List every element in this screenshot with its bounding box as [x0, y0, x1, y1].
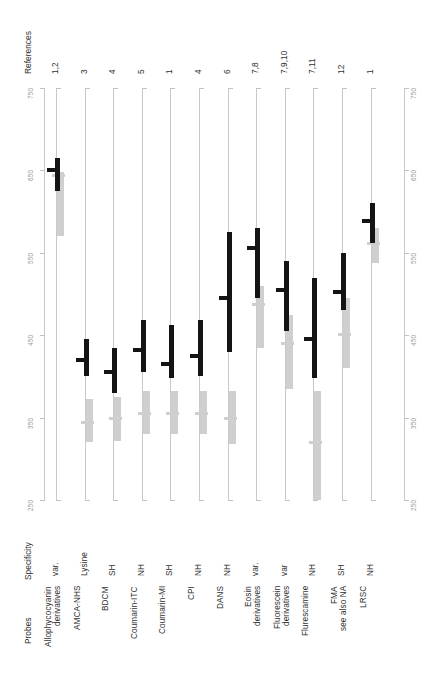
- axis-cap-top: [113, 88, 118, 89]
- category-axis-line: [170, 88, 171, 500]
- axis-cap-top: [199, 88, 204, 89]
- axis-tick: [40, 253, 45, 254]
- reference-label: 7,11: [309, 22, 318, 74]
- axis-tick-label: 550: [411, 242, 418, 264]
- axis-cap-top: [342, 88, 347, 89]
- excitation-range-bar: [255, 228, 260, 298]
- reference-label: 4: [195, 22, 204, 74]
- probe-label: LRSC: [360, 586, 369, 686]
- axis-cap-bottom: [228, 500, 233, 501]
- specificity-label: Lysine: [81, 520, 90, 576]
- excitation-marker: [276, 288, 289, 292]
- reference-label: 7,9,10: [281, 22, 290, 74]
- excitation-marker: [333, 290, 346, 294]
- category-axis-line: [199, 88, 200, 500]
- emission-marker: [338, 333, 351, 336]
- axis-cap-top: [313, 88, 318, 89]
- reference-label: 12: [338, 22, 347, 74]
- category-axis-line: [371, 88, 372, 500]
- axis-tick: [404, 335, 409, 336]
- reference-label: 3: [81, 22, 90, 74]
- excitation-range-bar: [141, 320, 146, 372]
- category-axis-line: [142, 88, 143, 500]
- specificity-label: NH: [309, 520, 318, 576]
- probe-label: Fluorescein derivatives: [274, 586, 291, 686]
- specificity-label: var.: [252, 520, 261, 576]
- axis-cap-bottom: [170, 500, 175, 501]
- excitation-range-bar: [341, 253, 346, 311]
- axis-cap-bottom: [256, 500, 261, 501]
- axis-tick-label: 650: [28, 159, 35, 181]
- emission-marker: [309, 441, 322, 444]
- excitation-range-bar: [312, 278, 317, 379]
- axis-tick-label: 350: [411, 407, 418, 429]
- emission-marker: [195, 412, 208, 415]
- axis-tick: [404, 253, 409, 254]
- excitation-marker: [161, 362, 174, 366]
- axis-tick-label: 350: [28, 407, 35, 429]
- axis-cap-bottom: [371, 500, 376, 501]
- probe-spectra-figure: References Specificity Probes 7506505504…: [0, 0, 432, 695]
- excitation-marker: [219, 296, 232, 300]
- axis-tick: [404, 88, 409, 89]
- axis-cap-bottom: [342, 500, 347, 501]
- specificity-label: var.: [52, 520, 61, 576]
- excitation-marker: [247, 246, 260, 250]
- axis-tick: [40, 500, 45, 501]
- axis-tick-label: 250: [411, 489, 418, 511]
- axis-cap-top: [142, 88, 147, 89]
- reference-label: 1: [166, 22, 175, 74]
- excitation-range-bar: [198, 320, 203, 376]
- axis-tick-label: 750: [411, 77, 418, 99]
- axis-tick-label: 550: [28, 242, 35, 264]
- axis-tick-label: 450: [411, 324, 418, 346]
- reference-label: 5: [138, 22, 147, 74]
- excitation-range-bar: [227, 232, 232, 351]
- specificity-label: NH: [367, 520, 376, 576]
- axis-cap-top: [56, 88, 61, 89]
- probe-label: BDCM: [102, 586, 111, 686]
- probe-label: DANS: [217, 586, 226, 686]
- axis-cap-bottom: [313, 500, 318, 501]
- excitation-marker: [76, 358, 89, 362]
- emission-marker: [138, 412, 151, 415]
- emission-marker: [224, 417, 237, 420]
- excitation-marker: [104, 370, 117, 374]
- axis-cap-top: [285, 88, 290, 89]
- axis-cap-bottom: [142, 500, 147, 501]
- specificity-label: SH: [109, 520, 118, 576]
- probe-label: FMA see also NA: [331, 586, 348, 686]
- axis-cap-top: [256, 88, 261, 89]
- axis-tick: [404, 170, 409, 171]
- reference-label: 6: [224, 22, 233, 74]
- axis-tick: [40, 88, 45, 89]
- axis-tick: [404, 418, 409, 419]
- excitation-range-bar: [284, 261, 289, 331]
- emission-marker: [109, 417, 122, 420]
- axis-cap-top: [85, 88, 90, 89]
- specificity-label: var: [281, 520, 290, 576]
- probe-label: Eosin derivatives: [245, 586, 262, 686]
- axis-cap-bottom: [85, 500, 90, 501]
- excitation-marker: [304, 337, 317, 341]
- specificity-label: NH: [138, 520, 147, 576]
- axis-tick: [404, 500, 409, 501]
- probe-label: Allophycocyanin derivatives: [45, 586, 62, 686]
- specificity-label: SH: [166, 520, 175, 576]
- excitation-range-bar: [169, 325, 174, 378]
- specificity-label: NH: [195, 520, 204, 576]
- reference-label: 7,8: [252, 22, 261, 74]
- axis-tick-label: 250: [28, 489, 35, 511]
- axis-cap-bottom: [56, 500, 61, 501]
- value-axis-left: [44, 88, 45, 500]
- excitation-range-bar: [55, 158, 60, 191]
- axis-cap-top: [228, 88, 233, 89]
- excitation-marker: [362, 219, 375, 223]
- reference-label: 4: [109, 22, 118, 74]
- axis-tick: [40, 335, 45, 336]
- probe-label: Coumarin-ITC: [131, 586, 140, 686]
- axis-cap-top: [371, 88, 376, 89]
- axis-tick-label: 750: [28, 77, 35, 99]
- probe-label: Coumarin-MI: [159, 586, 168, 686]
- axis-tick-label: 450: [28, 324, 35, 346]
